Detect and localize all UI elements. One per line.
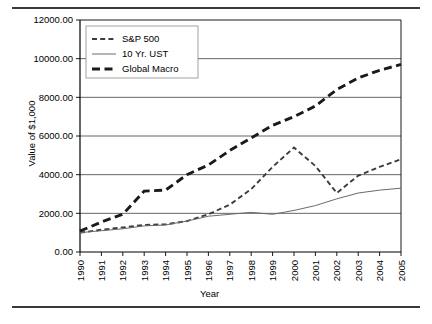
figure-container: Value of $1,000 Year 0.002000.004000.006… [0,0,432,324]
series-line-global-macro [80,64,401,231]
legend-label: Global Macro [122,63,179,74]
y-tick-label: 12000.00 [33,14,73,25]
x-tick-label: 1994 [160,260,171,281]
x-tick-label: 1998 [246,260,257,281]
x-tick-label: 1992 [117,260,128,281]
x-tick-label: 1995 [182,260,193,281]
y-tick-labels-group: 0.002000.004000.006000.008000.0010000.00… [33,14,73,257]
x-tick-label: 2000 [289,260,300,281]
y-tick-label: 2000.00 [39,208,73,219]
y-tick-label: 4000.00 [39,169,73,180]
x-tick-label: 1993 [139,260,150,281]
legend-label: S&P 500 [122,33,159,44]
x-tick-label: 2002 [331,260,342,281]
y-tick-label: 6000.00 [39,130,73,141]
series-lines-group [80,64,401,232]
legend-label: 10 Yr. UST [122,48,168,59]
x-tick-label: 2004 [374,260,385,281]
bottom-horizontal-rule [12,306,420,308]
x-tick-label: 1999 [267,260,278,281]
x-tick-label: 2001 [310,260,321,281]
top-horizontal-rule [12,7,420,9]
x-tick-label: 1997 [224,260,235,281]
y-tick-label: 0.00 [55,246,74,257]
x-tick-label: 1996 [203,260,214,281]
series-line-s-p-500 [80,148,401,233]
x-tick-label: 1991 [96,260,107,281]
x-tick-label: 2005 [396,260,407,281]
x-tick-label: 1990 [75,260,86,281]
x-tick-label: 2003 [353,260,364,281]
chart-legend: S&P 50010 Yr. USTGlobal Macro [86,26,198,78]
x-tick-labels-group: 1990199119921993199419951996199719981999… [75,260,407,281]
y-tick-label: 8000.00 [39,92,73,103]
x-tick-marks-group [80,252,401,256]
y-tick-label: 10000.00 [33,53,73,64]
line-chart: 0.002000.004000.006000.008000.0010000.00… [0,14,432,294]
